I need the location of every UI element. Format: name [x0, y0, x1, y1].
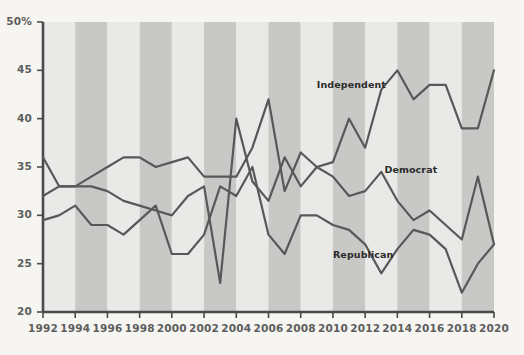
y-axis-ticks: 20253035404550%	[6, 15, 43, 317]
y-tick-label: 45	[17, 63, 32, 75]
x-tick-label: 2008	[286, 322, 316, 334]
stripe-band	[462, 22, 494, 312]
x-tick-label: 1992	[28, 322, 58, 334]
x-tick-label: 2014	[382, 322, 412, 334]
x-tick-label: 2000	[157, 322, 187, 334]
y-tick-label: 40	[17, 112, 32, 124]
stripe-band	[269, 22, 301, 312]
x-axis-ticks: 1992199419961998200020022004200620082010…	[28, 312, 509, 334]
x-tick-label: 1998	[125, 322, 155, 334]
x-tick-label: 2020	[479, 322, 509, 334]
stripe-band	[172, 22, 204, 312]
stripe-band	[333, 22, 365, 312]
series-label-republican: Republican	[333, 249, 394, 260]
line-chart: 20253035404550% 199219941996199820002002…	[0, 0, 524, 355]
x-tick-label: 2012	[350, 322, 380, 334]
x-tick-label: 1994	[60, 322, 90, 334]
y-tick-label: 50%	[6, 15, 32, 27]
x-tick-label: 2002	[189, 322, 219, 334]
y-tick-label: 25	[17, 257, 32, 269]
y-tick-label: 20	[17, 305, 32, 317]
series-label-democrat: Democrat	[384, 164, 437, 175]
chart-root: 20253035404550% 199219941996199820002002…	[0, 0, 524, 355]
x-tick-label: 2010	[318, 322, 348, 334]
x-tick-label: 2016	[415, 322, 445, 334]
stripe-band	[107, 22, 139, 312]
chart-canvas: 20253035404550% 199219941996199820002002…	[0, 0, 524, 355]
y-tick-label: 35	[17, 160, 32, 172]
x-tick-label: 1996	[92, 322, 122, 334]
series-label-independent: Independent	[317, 79, 387, 90]
x-tick-label: 2018	[447, 322, 477, 334]
x-tick-label: 2004	[221, 322, 251, 334]
stripe-band	[75, 22, 107, 312]
x-tick-label: 2006	[253, 322, 283, 334]
y-tick-label: 30	[17, 208, 32, 220]
